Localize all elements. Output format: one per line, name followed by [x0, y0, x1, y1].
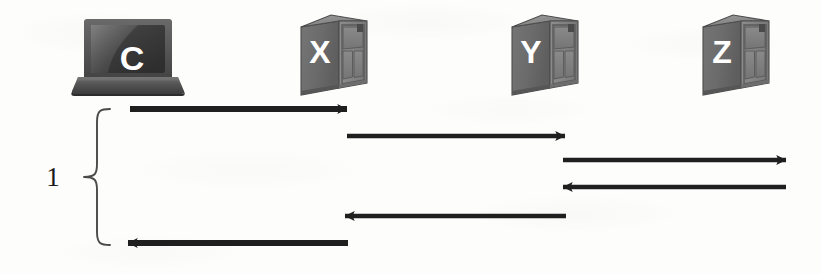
tower-lower-panel-left	[745, 51, 755, 79]
tower-lower-panel-right	[756, 51, 765, 78]
server-tower-icon-z: Z	[703, 15, 769, 95]
group-brace: 1	[46, 109, 110, 245]
tower-lower-panel-left	[554, 51, 564, 79]
diagram-canvas: CXYZ 1	[0, 0, 821, 274]
message-arrows-layer	[128, 109, 786, 243]
tower-lower-panel-left	[343, 51, 353, 79]
node-label-z: Z	[712, 34, 732, 70]
group-brace-path	[84, 109, 110, 245]
tower-power-button	[759, 24, 765, 32]
group-brace-label: 1	[46, 162, 60, 192]
laptop-hinge	[77, 77, 180, 81]
tower-power-button	[568, 24, 574, 32]
server-tower-icon-y: Y	[512, 15, 578, 95]
node-label-x: X	[309, 34, 331, 70]
node-label-y: Y	[520, 34, 541, 70]
server-tower-icon-x: X	[301, 15, 367, 95]
node-icons-layer: CXYZ	[71, 15, 769, 96]
tower-lower-panel-right	[565, 51, 574, 78]
node-label-c: C	[120, 39, 145, 77]
sequence-diagram: CXYZ 1	[0, 0, 821, 274]
laptop-client-icon: C	[71, 19, 184, 96]
tower-lower-panel-right	[354, 51, 363, 78]
tower-power-button	[357, 24, 363, 32]
